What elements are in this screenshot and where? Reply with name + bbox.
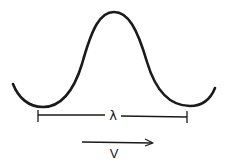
velocity-arrow-shaft — [82, 142, 152, 143]
wavelength-line-right — [121, 116, 187, 117]
wavelength-label: λ — [108, 109, 118, 122]
velocity-label: V — [109, 147, 120, 160]
wave-curve — [13, 12, 215, 107]
wave-diagram — [0, 0, 233, 167]
